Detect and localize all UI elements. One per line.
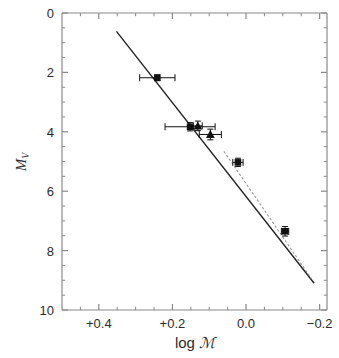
scatter-plot-canvas: +0.4+0.20.0−0.20246810 log ℳ MV	[0, 0, 339, 358]
y-tick-label: 2	[47, 65, 54, 80]
axis-ticks	[62, 13, 327, 310]
x-axis-title: log ℳ	[175, 334, 217, 351]
data-point	[140, 74, 175, 81]
x-tick-label: −0.2	[307, 316, 333, 331]
plot-frame	[62, 13, 327, 310]
chart-figure: +0.4+0.20.0−0.20246810 log ℳ MV scatter …	[0, 0, 339, 358]
axis-tick-labels: +0.4+0.20.0−0.20246810	[40, 6, 333, 331]
fit-lines	[116, 31, 314, 283]
x-axis-label: log ℳ	[175, 334, 217, 351]
square-marker	[282, 228, 289, 235]
data-point	[165, 123, 215, 131]
y-tick-label: 0	[47, 6, 54, 21]
data-point	[193, 121, 202, 131]
x-tick-label: 0.0	[237, 316, 255, 331]
solid-fit-line	[116, 31, 314, 283]
square-marker	[187, 123, 194, 130]
y-axis-title: MV	[13, 151, 31, 173]
x-tick-label: +0.2	[160, 316, 186, 331]
data-point	[233, 158, 243, 166]
data-point	[199, 129, 221, 140]
dashed-fit-line	[224, 151, 312, 278]
y-tick-label: 4	[47, 125, 54, 140]
y-axis-label: MV	[13, 151, 31, 173]
square-marker	[235, 159, 242, 166]
y-tick-label: 10	[40, 303, 54, 318]
data-point	[281, 227, 288, 237]
square-marker	[154, 74, 161, 81]
y-tick-label: 6	[47, 184, 54, 199]
x-tick-label: +0.4	[86, 316, 112, 331]
y-tick-label: 8	[47, 244, 54, 259]
